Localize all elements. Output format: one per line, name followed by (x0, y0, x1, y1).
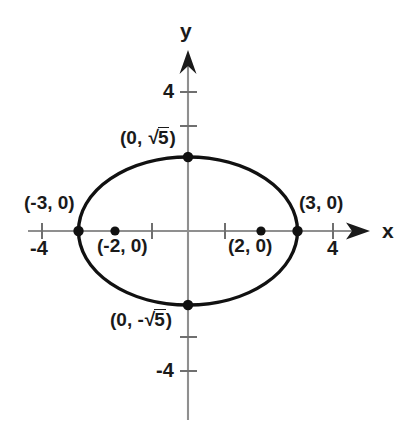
point-covertex-bottom (183, 300, 193, 310)
label-covertex-top-prefix: (0, (120, 127, 147, 148)
point-covertex-top (183, 152, 193, 162)
label-vertex-left: (-3, 0) (24, 193, 75, 212)
label-vertex-right: (3, 0) (299, 193, 343, 212)
y-tick-label--4: -4 (156, 360, 174, 380)
label-covertex-bottom-suffix: ) (166, 309, 172, 330)
label-focus-left: (-2, 0) (97, 236, 148, 255)
x-tick-label--4: -4 (30, 238, 48, 258)
sqrt-icon-top: √5 (147, 127, 169, 147)
y-tick-label-4: 4 (163, 81, 174, 101)
ellipse-figure: x y -4 4 4 -4 (-3, 0) (3, 0) (-2, 0) (2,… (0, 0, 408, 443)
label-covertex-bottom-prefix: (0, - (110, 309, 144, 330)
label-covertex-top: (0, √5) (120, 127, 176, 147)
point-vertex-right (292, 226, 302, 236)
sqrt-icon-bottom: √5 (144, 309, 166, 329)
radicand-top: 5 (158, 127, 170, 147)
label-covertex-bottom: (0, -√5) (110, 309, 172, 329)
label-focus-right: (2, 0) (228, 236, 272, 255)
label-covertex-top-suffix: ) (169, 127, 175, 148)
radicand-bottom: 5 (154, 309, 166, 329)
y-axis-label: y (180, 20, 192, 41)
point-vertex-left (73, 226, 83, 236)
x-axis-label: x (382, 220, 394, 241)
plot-canvas (0, 0, 408, 443)
x-tick-label-4: 4 (327, 238, 338, 258)
